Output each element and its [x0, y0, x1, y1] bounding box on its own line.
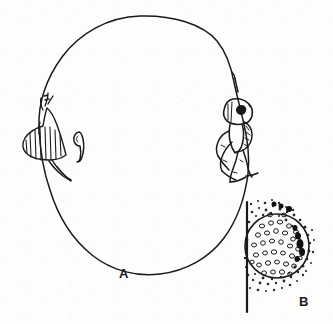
comma-outline	[74, 132, 84, 162]
insect-thorax	[229, 124, 243, 153]
insect-leg-front-lower	[218, 156, 229, 170]
left-striped-wedge	[23, 93, 71, 181]
insect-leg-hind	[230, 152, 238, 182]
insect-leg-front	[217, 131, 230, 156]
central-comma-mark	[74, 132, 84, 162]
wedge-tail	[52, 160, 71, 180]
figure-label-b: B	[299, 295, 309, 308]
right-insect-figure	[217, 99, 259, 182]
insect-head-marking	[236, 105, 246, 115]
comma-inner	[77, 136, 79, 142]
figure-label-a: A	[119, 267, 129, 280]
illustration-plate: A B	[0, 0, 333, 324]
wedge-body-outline	[23, 108, 66, 160]
line-drawing-canvas	[0, 0, 333, 324]
